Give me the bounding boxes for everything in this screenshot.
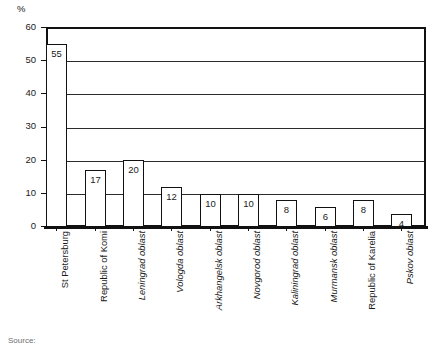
x-label-leningrad-oblast: Leningrad oblast <box>137 231 147 335</box>
y-tick-label: 50 <box>10 55 36 65</box>
x-label-republic-of-komi: Republic of Komi <box>99 231 109 335</box>
y-tick-label: 10 <box>10 188 36 198</box>
bar-value-label: 8 <box>283 204 290 215</box>
bar[interactable]: 20 <box>123 160 144 227</box>
bar[interactable]: 10 <box>238 194 259 227</box>
bar[interactable]: 8 <box>276 200 297 227</box>
bar-value-label: 10 <box>242 198 255 209</box>
y-tick-label: 20 <box>10 155 36 165</box>
clipped-source-text: Source: <box>8 336 36 343</box>
y-tick-label: 40 <box>10 88 36 98</box>
bar-value-label: 10 <box>204 198 217 209</box>
bar[interactable]: 12 <box>161 187 182 227</box>
bar-value-label: 12 <box>165 191 178 202</box>
x-axis-line <box>44 226 428 229</box>
x-axis-category-labels: St Petersburg Republic of Komi Leningrad… <box>46 231 426 335</box>
bar-value-label: 20 <box>127 164 140 175</box>
y-axis-tick-labels: 60 50 40 30 20 10 0 <box>10 0 40 337</box>
x-label-novgorod-oblast: Novgorod oblast <box>252 231 262 335</box>
x-label-republic-of-karelia: Republic of Karelia <box>367 231 377 335</box>
y-tick-label: 0 <box>10 221 36 231</box>
bars-layer: 55 17 20 12 10 10 8 6 8 4 <box>46 27 426 227</box>
x-label-kaliningrad-oblast: Kaliningrad oblast <box>290 231 300 335</box>
bar[interactable]: 8 <box>353 200 374 227</box>
bar[interactable]: 6 <box>315 207 336 227</box>
y-tick-label: 30 <box>10 121 36 131</box>
bar[interactable]: 4 <box>391 214 412 227</box>
bar-value-label: 6 <box>322 211 329 222</box>
x-label-vologda-oblast: Vologda oblast <box>175 231 185 335</box>
bar[interactable]: 10 <box>200 194 221 227</box>
x-label-st-petersburg: St Petersburg <box>60 231 70 335</box>
bar[interactable]: 17 <box>85 170 106 227</box>
bar-value-label: 8 <box>360 204 367 215</box>
x-label-murmansk-oblast: Murmansk oblast <box>329 231 339 335</box>
x-label-arkhangelsk-oblast: Arkhangelsk oblast <box>214 231 224 335</box>
x-label-pskov-oblast: Pskov oblast <box>405 231 415 335</box>
bar-value-label: 55 <box>50 48 63 59</box>
y-tick-label: 60 <box>10 22 36 32</box>
bar[interactable]: 55 <box>46 44 67 227</box>
bar-value-label: 17 <box>89 174 102 185</box>
